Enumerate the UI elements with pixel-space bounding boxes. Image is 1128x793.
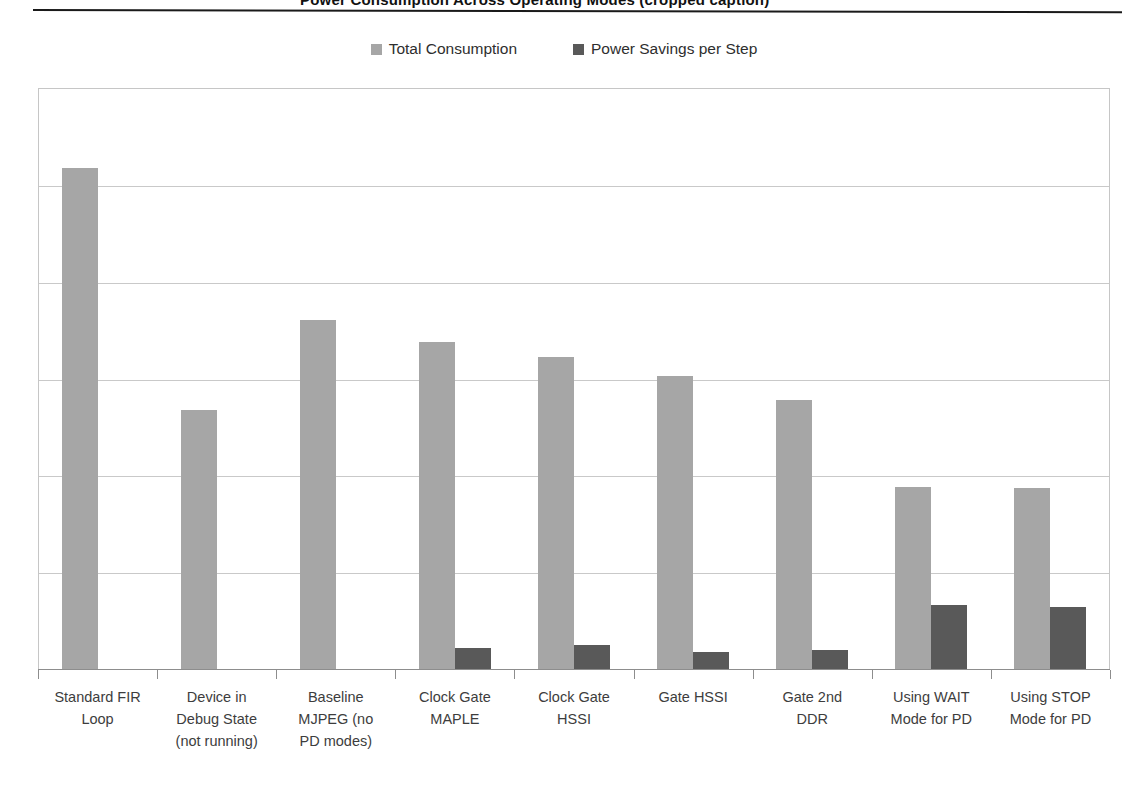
x-axis-tick-0 [38, 670, 39, 679]
x-axis-label-1: Device inDebug State(not running) [157, 686, 276, 752]
chart-legend: Total ConsumptionPower Savings per Step [0, 40, 1128, 58]
bar-group-4[interactable] [515, 89, 634, 669]
bar-power-savings-5[interactable] [693, 652, 729, 669]
x-axis-tick-4 [514, 670, 515, 679]
x-axis-tick-9 [1110, 670, 1111, 679]
x-axis-label-3-line-1: MAPLE [397, 708, 512, 730]
x-axis-label-0-line-1: Loop [40, 708, 155, 730]
x-axis-label-2-line-1: MJPEG (no [278, 708, 393, 730]
top-caption-strip: Power Consumption Across Operating Modes… [0, 0, 1128, 9]
bar-total-consumption-0[interactable] [62, 168, 98, 669]
bar-group-0[interactable] [39, 89, 158, 669]
x-axis-label-0-line-0: Standard FIR [40, 686, 155, 708]
bars-container [39, 89, 1109, 669]
x-axis-label-1-line-2: (not running) [159, 730, 274, 752]
x-axis-label-4-line-0: Clock Gate [516, 686, 631, 708]
top-caption-text: Power Consumption Across Operating Modes… [300, 0, 769, 8]
x-axis-tick-1 [157, 670, 158, 679]
bar-group-2[interactable] [277, 89, 396, 669]
x-axis-label-3: Clock GateMAPLE [395, 686, 514, 752]
x-axis-label-5-line-0: Gate HSSI [636, 686, 751, 708]
x-axis-tick-2 [276, 670, 277, 679]
legend-label-0: Total Consumption [389, 40, 517, 58]
x-axis-label-1-line-0: Device in [159, 686, 274, 708]
x-axis-label-8-line-0: Using STOP [993, 686, 1108, 708]
bar-total-consumption-8[interactable] [1014, 488, 1050, 669]
x-axis-label-8: Using STOPMode for PD [991, 686, 1110, 752]
x-axis-label-3-line-0: Clock Gate [397, 686, 512, 708]
x-axis-label-6-line-1: DDR [755, 708, 870, 730]
x-axis-label-6-line-0: Gate 2nd [755, 686, 870, 708]
legend-label-1: Power Savings per Step [591, 40, 757, 58]
x-axis-label-8-line-1: Mode for PD [993, 708, 1108, 730]
x-axis-tick-8 [991, 670, 992, 679]
x-axis-label-7: Using WAITMode for PD [872, 686, 991, 752]
x-axis-label-4: Clock GateHSSI [514, 686, 633, 752]
bar-total-consumption-7[interactable] [895, 487, 931, 669]
x-axis-label-0: Standard FIRLoop [38, 686, 157, 752]
bar-group-3[interactable] [396, 89, 515, 669]
x-axis-tick-6 [753, 670, 754, 679]
chart-plot-area [38, 88, 1110, 669]
legend-swatch-total-consumption [371, 44, 382, 55]
x-axis-tick-3 [395, 670, 396, 679]
bar-total-consumption-4[interactable] [538, 357, 574, 669]
bar-power-savings-8[interactable] [1050, 607, 1086, 669]
bar-power-savings-3[interactable] [455, 648, 491, 669]
x-axis-label-2: BaselineMJPEG (noPD modes) [276, 686, 395, 752]
x-axis-label-2-line-0: Baseline [278, 686, 393, 708]
x-axis-label-5: Gate HSSI [634, 686, 753, 752]
x-axis-labels: Standard FIRLoopDevice inDebug State(not… [38, 686, 1110, 752]
bar-total-consumption-3[interactable] [419, 342, 455, 669]
x-axis-label-4-line-1: HSSI [516, 708, 631, 730]
x-axis-ticks [38, 670, 1110, 679]
horizontal-rule [33, 9, 1122, 13]
x-axis-label-7-line-1: Mode for PD [874, 708, 989, 730]
bar-total-consumption-5[interactable] [657, 376, 693, 669]
x-axis-label-6: Gate 2ndDDR [753, 686, 872, 752]
bar-total-consumption-1[interactable] [181, 410, 217, 669]
bar-group-7[interactable] [871, 89, 990, 669]
legend-entry-0[interactable]: Total Consumption [371, 40, 517, 58]
bar-total-consumption-2[interactable] [300, 320, 336, 669]
x-axis-tick-7 [872, 670, 873, 679]
bar-group-5[interactable] [633, 89, 752, 669]
bar-power-savings-7[interactable] [931, 605, 967, 669]
x-axis-label-1-line-1: Debug State [159, 708, 274, 730]
bar-power-savings-4[interactable] [574, 645, 610, 669]
legend-entry-1[interactable]: Power Savings per Step [573, 40, 757, 58]
bar-group-8[interactable] [990, 89, 1109, 669]
bar-total-consumption-6[interactable] [776, 400, 812, 669]
legend-swatch-power-savings [573, 44, 584, 55]
x-axis-tick-5 [634, 670, 635, 679]
x-axis-label-2-line-2: PD modes) [278, 730, 393, 752]
x-axis-label-7-line-0: Using WAIT [874, 686, 989, 708]
bar-group-6[interactable] [752, 89, 871, 669]
bar-group-1[interactable] [158, 89, 277, 669]
bar-power-savings-6[interactable] [812, 650, 848, 669]
